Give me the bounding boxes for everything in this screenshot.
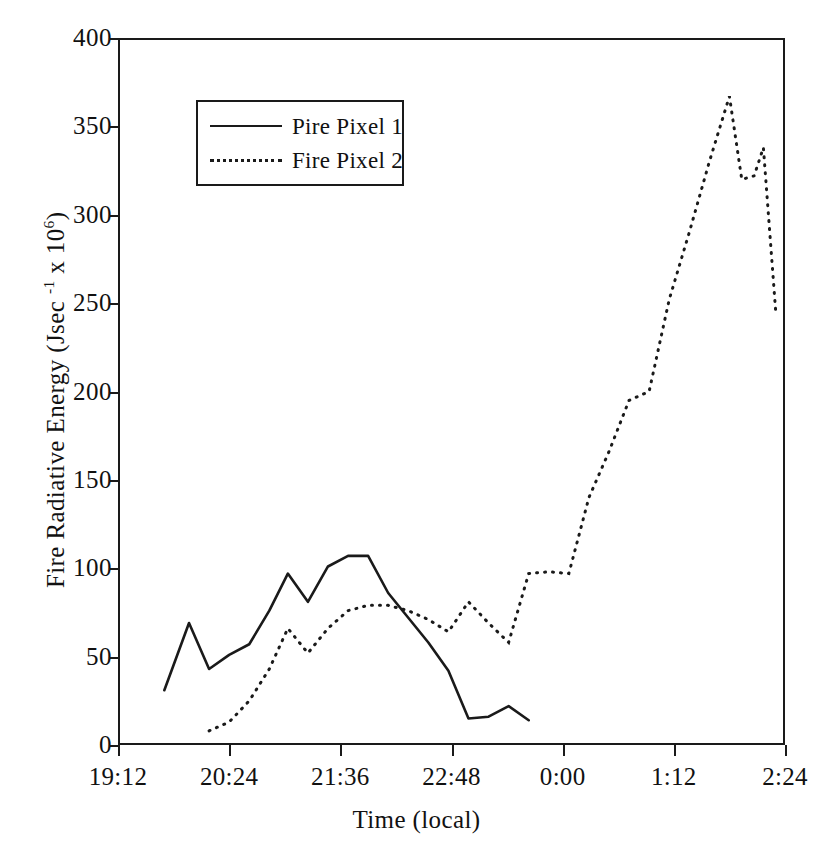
y-tick-mark (109, 568, 118, 570)
x-tick-label: 1:12 (614, 762, 734, 792)
x-tick-label: 19:12 (58, 762, 178, 792)
y-tick-mark (109, 38, 118, 40)
y-axis-title-exponent-inverse: -1 (40, 280, 57, 294)
y-tick-mark (109, 480, 118, 482)
series-line-fire-pixel-2 (209, 96, 776, 731)
x-tick-mark (118, 745, 120, 756)
legend-item-fire-pixel-2: Fire Pixel 2 (208, 143, 392, 177)
y-tick-mark (109, 303, 118, 305)
fire-radiative-energy-chart: 050100150200250300350400 Pire Pixel 1 Fi… (0, 0, 833, 865)
x-tick-label: 2:24 (725, 762, 833, 792)
x-tick-mark (452, 745, 454, 756)
x-tick-label: 22:48 (392, 762, 512, 792)
x-tick-mark (229, 745, 231, 756)
x-axis-labels: 19:1220:2421:3622:480:001:122:24 (0, 762, 833, 796)
legend-dotted-line-icon (208, 153, 284, 167)
series-line-pire-pixel-1 (164, 556, 528, 720)
x-tick-mark (785, 745, 787, 756)
y-tick-mark (109, 215, 118, 217)
y-axis-title-exponent-six: 6 (40, 220, 57, 228)
x-tick-label: 20:24 (169, 762, 289, 792)
y-tick-label: 400 (36, 25, 112, 50)
legend: Pire Pixel 1 Fire Pixel 2 (196, 100, 404, 186)
y-tick-mark (109, 126, 118, 128)
y-axis-title-middle: x 10 (42, 228, 69, 280)
x-tick-label: 21:36 (280, 762, 400, 792)
y-axis-title: Fire Radiative Energy (Jsec -1 x 106) (40, 50, 70, 750)
x-tick-mark (340, 745, 342, 756)
legend-label-pire-pixel-1: Pire Pixel 1 (292, 115, 403, 138)
x-axis-title: Time (local) (0, 806, 833, 834)
y-axis-title-suffix: ) (42, 212, 69, 221)
x-tick-mark (563, 745, 565, 756)
y-tick-mark (109, 392, 118, 394)
y-axis-title-prefix: Fire Radiative Energy (Jsec (42, 294, 69, 588)
legend-item-pire-pixel-1: Pire Pixel 1 (208, 109, 392, 143)
y-tick-mark (109, 657, 118, 659)
legend-solid-line-icon (208, 119, 284, 133)
x-tick-label: 0:00 (503, 762, 623, 792)
x-tick-mark (674, 745, 676, 756)
legend-label-fire-pixel-2: Fire Pixel 2 (292, 149, 403, 172)
